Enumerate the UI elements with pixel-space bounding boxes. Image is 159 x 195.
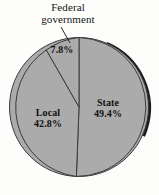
federal-government-caption-line-2: government bbox=[22, 14, 114, 26]
state-slice-name: State bbox=[84, 97, 132, 108]
state-slice-percent: 49.4% bbox=[84, 108, 132, 119]
pie-chart-figure: Federal government 7.8% State 49.4% Loca… bbox=[0, 0, 159, 195]
federal-government-caption-line-1: Federal bbox=[22, 2, 114, 14]
federal-government-percent-value: 7.8% bbox=[45, 44, 79, 55]
local-slice-percent: 42.8% bbox=[24, 118, 72, 129]
local-slice-name: Local bbox=[24, 107, 72, 118]
federal-government-percent-label: 7.8% bbox=[45, 44, 79, 55]
pie-chart-canvas bbox=[0, 0, 159, 195]
federal-government-caption: Federal government bbox=[22, 2, 114, 25]
state-slice-label: State 49.4% bbox=[84, 97, 132, 119]
local-slice-label: Local 42.8% bbox=[24, 107, 72, 129]
